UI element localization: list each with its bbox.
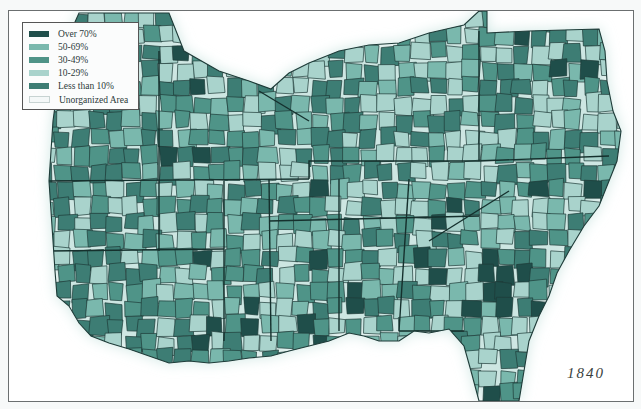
county[interactable] <box>495 13 512 29</box>
county[interactable] <box>614 79 633 98</box>
county[interactable] <box>157 347 173 366</box>
county[interactable] <box>363 180 378 195</box>
county[interactable] <box>55 367 72 387</box>
county[interactable] <box>291 46 306 66</box>
county[interactable] <box>564 315 583 335</box>
county[interactable] <box>91 195 111 214</box>
county[interactable] <box>92 283 107 299</box>
county[interactable] <box>176 381 196 400</box>
county[interactable] <box>394 97 413 116</box>
county[interactable] <box>327 214 342 231</box>
county[interactable] <box>313 347 333 369</box>
county[interactable] <box>156 284 173 303</box>
county[interactable] <box>615 299 632 316</box>
county[interactable] <box>105 180 124 198</box>
county[interactable] <box>241 350 256 369</box>
county[interactable] <box>41 314 60 331</box>
county[interactable] <box>290 95 310 113</box>
county[interactable] <box>460 111 478 126</box>
county[interactable] <box>617 11 633 27</box>
county[interactable] <box>478 371 496 387</box>
county[interactable] <box>566 332 581 352</box>
county[interactable] <box>173 80 191 96</box>
county[interactable] <box>534 13 550 32</box>
county[interactable] <box>259 130 274 147</box>
county[interactable] <box>227 384 246 399</box>
county[interactable] <box>75 264 90 283</box>
county[interactable] <box>552 11 569 27</box>
county[interactable] <box>568 281 587 302</box>
county[interactable] <box>431 370 450 385</box>
county[interactable] <box>549 178 564 196</box>
county[interactable] <box>262 30 277 47</box>
county[interactable] <box>482 249 498 267</box>
county[interactable] <box>209 114 230 132</box>
county[interactable] <box>190 79 205 95</box>
county[interactable] <box>58 383 76 401</box>
county[interactable] <box>430 78 447 93</box>
county[interactable] <box>224 160 240 180</box>
county[interactable] <box>174 283 195 300</box>
county[interactable] <box>381 27 400 43</box>
county[interactable] <box>409 368 427 386</box>
county[interactable] <box>612 369 633 388</box>
county[interactable] <box>242 11 263 28</box>
county[interactable] <box>293 333 309 350</box>
county[interactable] <box>535 347 553 367</box>
county[interactable] <box>582 229 600 248</box>
county[interactable] <box>510 79 531 94</box>
county[interactable] <box>518 11 534 27</box>
county[interactable] <box>342 336 359 354</box>
county[interactable] <box>580 250 598 269</box>
county[interactable] <box>343 261 363 280</box>
county[interactable] <box>258 91 276 112</box>
county[interactable] <box>580 314 598 332</box>
county[interactable] <box>39 370 54 387</box>
county[interactable] <box>362 27 382 42</box>
county[interactable] <box>190 195 210 213</box>
county[interactable] <box>532 64 551 82</box>
county[interactable] <box>39 332 58 349</box>
county[interactable] <box>498 249 516 265</box>
county[interactable] <box>175 248 193 265</box>
county[interactable] <box>514 216 531 231</box>
county[interactable] <box>549 230 569 246</box>
county[interactable] <box>327 249 343 267</box>
county[interactable] <box>86 298 104 316</box>
county[interactable] <box>193 11 212 27</box>
county[interactable] <box>444 110 460 131</box>
county[interactable] <box>620 96 633 116</box>
county[interactable] <box>191 366 209 382</box>
county[interactable] <box>427 116 445 134</box>
county[interactable] <box>447 351 464 368</box>
county[interactable] <box>123 128 143 146</box>
county[interactable] <box>376 143 394 162</box>
county[interactable] <box>412 182 431 199</box>
county[interactable] <box>124 365 140 385</box>
county[interactable] <box>599 42 617 60</box>
county[interactable] <box>259 61 279 78</box>
county[interactable] <box>602 12 620 28</box>
county[interactable] <box>582 282 602 304</box>
county[interactable] <box>378 349 396 364</box>
county[interactable] <box>36 387 55 401</box>
county[interactable] <box>364 44 379 63</box>
county[interactable] <box>614 285 633 303</box>
county[interactable] <box>378 248 397 266</box>
county[interactable] <box>74 197 91 216</box>
county[interactable] <box>259 11 279 25</box>
county[interactable] <box>38 181 57 200</box>
county[interactable] <box>380 384 398 401</box>
county[interactable] <box>533 388 552 401</box>
county[interactable] <box>359 129 376 149</box>
county[interactable] <box>585 383 600 401</box>
county[interactable] <box>72 336 92 353</box>
county[interactable] <box>497 64 515 81</box>
county[interactable] <box>482 62 498 81</box>
county[interactable] <box>478 264 495 282</box>
county[interactable] <box>243 28 264 43</box>
county[interactable] <box>547 365 565 383</box>
county[interactable] <box>603 332 621 347</box>
county[interactable] <box>550 300 569 316</box>
county[interactable] <box>143 386 163 401</box>
